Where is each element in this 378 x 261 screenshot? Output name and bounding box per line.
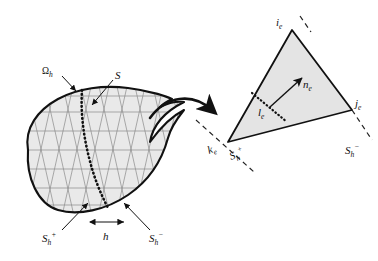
triangle-outline (228, 30, 352, 142)
vertex-k-sub: e (212, 147, 219, 157)
vertex-j-label: je (353, 97, 362, 112)
vertex-k-label: ke (206, 142, 219, 159)
vertex-k-label-group: ke (206, 142, 219, 159)
diagram-canvas: Ωh S Sh+ h Sh− ie je n (0, 0, 378, 261)
figure-container: Ωh S Sh+ h Sh− ie je n (0, 0, 378, 261)
surface-minus-right-sub: h (351, 150, 355, 159)
surface-minus-left-sub: h (155, 238, 159, 247)
domain-label-base: Ω (42, 66, 49, 76)
dashed-line-top (300, 16, 311, 32)
surface-plus-right-group: Sh+ (227, 144, 246, 165)
surface-minus-right-sup: − (354, 142, 359, 151)
surface-plus-right-sup: + (236, 144, 244, 154)
reference-triangle-element (228, 30, 352, 142)
surface-label: S (115, 69, 121, 81)
domain-label: Ωh (42, 66, 53, 79)
vertex-i-sub: e (279, 22, 283, 31)
surface-plus-left-label: Sh+ (42, 230, 56, 247)
surface-plus-right-sub: h (235, 153, 242, 163)
domain-label-sub: h (49, 70, 53, 79)
surface-minus-right-label: Sh− (345, 142, 359, 159)
vertex-i-label: ie (276, 16, 283, 31)
vertex-j-sub: e (358, 103, 362, 112)
surface-plus-right-label: Sh+ (227, 144, 246, 165)
mesh-size-label: h (103, 230, 109, 242)
domain-label-leader (62, 76, 76, 91)
dashed-line-right (352, 110, 372, 140)
surface-minus-left-label: Sh− (149, 230, 163, 247)
surface-minus-left-sup: − (158, 230, 163, 239)
surface-plus-left-sup: + (51, 230, 56, 239)
surface-minus-left-leader (124, 203, 150, 230)
surface-plus-left-sub: h (48, 238, 52, 247)
